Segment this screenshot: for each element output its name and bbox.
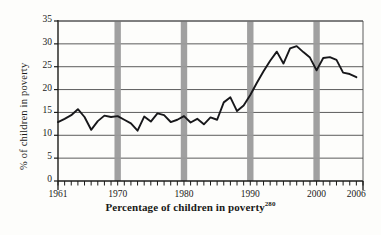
y-tick-label: 25	[22, 60, 52, 70]
poverty-line-chart-figure: % of children in poverty Percentage of c…	[0, 0, 381, 235]
x-tick-label: 1970	[93, 189, 143, 199]
caption-footnote-marker: 280	[265, 200, 276, 208]
y-tick-label: 35	[22, 14, 52, 24]
x-tick-label: 1961	[33, 189, 83, 199]
y-tick-label: 20	[22, 83, 52, 93]
figure-caption: Percentage of children in poverty280	[0, 200, 381, 213]
y-tick-label: 15	[22, 105, 52, 115]
caption-text: Percentage of children in poverty	[105, 201, 264, 213]
y-tick-label: 30	[22, 37, 52, 47]
y-tick-label: 0	[22, 174, 52, 184]
data-series-line	[58, 46, 356, 131]
x-tick-label: 1990	[225, 189, 275, 199]
decade-band-1970	[114, 21, 120, 181]
decade-band-1980	[181, 21, 187, 181]
x-tick-label: 2006	[331, 189, 381, 199]
y-tick-label: 5	[22, 151, 52, 161]
y-tick-label: 10	[22, 128, 52, 138]
decade-band-2000	[313, 21, 319, 181]
x-tick-label: 1980	[159, 189, 209, 199]
decade-band-1990	[247, 21, 253, 181]
